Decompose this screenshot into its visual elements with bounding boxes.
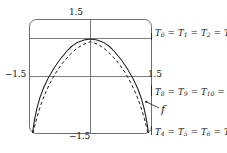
equals-sign: = [165, 87, 179, 97]
equals-sign: = [214, 87, 227, 97]
taylor-subscript: 1 [184, 31, 188, 38]
taylor-subscript: 0 [161, 31, 165, 38]
taylor-symbol: T1 [178, 28, 188, 38]
f-label-leader-dot [145, 101, 147, 103]
taylor-symbol: T10 [201, 87, 214, 97]
annotation-taylor-group-top: T0 = T1 = T2 = T3 [155, 28, 227, 38]
equals-sign: = [188, 127, 202, 137]
taylor-symbol: T0 [155, 28, 165, 38]
equals-sign: = [211, 127, 225, 137]
taylor-symbol: T4 [155, 127, 165, 137]
axis-tick-label-left: −1.5 [5, 69, 26, 79]
taylor-subscript: 5 [184, 130, 188, 137]
taylor-symbol: T2 [201, 28, 211, 38]
taylor-subscript: 9 [184, 90, 188, 97]
taylor-subscript: 2 [207, 31, 211, 38]
taylor-symbol: T8 [155, 87, 165, 97]
equals-sign: = [211, 28, 225, 38]
polynomial-interpolation-figure: 1.5 −1.5 1.5 −1.5 T0 = T1 = T2 = T3 T8 =… [0, 0, 227, 153]
annotation-taylor-group-bottom: T4 = T5 = T6 = T7 [155, 127, 227, 137]
taylor-subscript: 8 [161, 90, 165, 97]
annotation-function-label-f: f [161, 103, 165, 116]
equals-sign: = [165, 127, 179, 137]
annotation-taylor-group-middle: T8 = T9 = T10 = T11 [155, 87, 227, 97]
axis-tick-label-bottom: −1.5 [69, 131, 90, 141]
taylor-symbol: T6 [201, 127, 211, 137]
taylor-symbol: T7 [224, 127, 227, 137]
taylor-symbol: T3 [224, 28, 227, 38]
taylor-symbol: T9 [178, 87, 188, 97]
equals-sign: = [188, 28, 202, 38]
f-label-leader-line [147, 102, 160, 108]
taylor-subscript: 6 [207, 130, 211, 137]
axis-tick-label-right: 1.5 [148, 69, 162, 79]
axis-tick-label-top: 1.5 [69, 7, 83, 17]
equals-sign: = [165, 28, 179, 38]
taylor-symbol: T5 [178, 127, 188, 137]
equals-sign: = [188, 87, 202, 97]
taylor-subscript: 4 [161, 130, 165, 137]
